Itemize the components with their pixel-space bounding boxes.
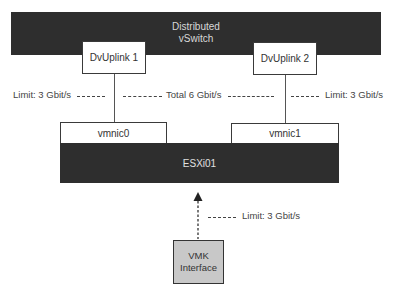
vmk-label-line1: VMK <box>188 250 209 262</box>
uplink-2-connector <box>285 75 286 123</box>
vmk-arrow-icon <box>192 192 204 240</box>
uplink-1-connector <box>114 74 115 122</box>
total-right-dash <box>228 96 274 97</box>
distributed-vswitch: Distributed vSwitch <box>11 12 381 55</box>
total-left-dash <box>123 96 162 97</box>
vswitch-label-line1: Distributed <box>172 21 220 33</box>
dvuplink-2: DvUplink 2 <box>253 42 317 75</box>
limit-right-label: Limit: 3 Gbit/s <box>325 89 383 100</box>
esxi-host: ESXi01 <box>60 143 339 183</box>
vmk-limit-dash <box>208 217 236 218</box>
dvuplink-2-label: DvUplink 2 <box>261 53 309 64</box>
vmk-label-line2: Interface <box>180 262 217 274</box>
dvuplink-1-label: DvUplink 1 <box>90 52 138 63</box>
vmnic1: vmnic1 <box>231 123 339 144</box>
total-label: Total 6 Gbit/s <box>166 89 221 100</box>
limit-left-dash <box>77 96 105 97</box>
limit-left-label: Limit: 3 Gbit/s <box>13 89 71 100</box>
vmnic0: vmnic0 <box>60 122 167 144</box>
limit-right-dash <box>291 96 319 97</box>
vmnic0-label: vmnic0 <box>98 128 130 139</box>
vswitch-label-line2: vSwitch <box>179 33 213 45</box>
vmnic1-label: vmnic1 <box>269 128 301 139</box>
vmk-interface: VMK Interface <box>173 240 224 284</box>
vmk-limit-label: Limit: 3 Gbit/s <box>242 210 300 221</box>
esxi-host-label: ESXi01 <box>183 158 216 169</box>
dvuplink-1: DvUplink 1 <box>82 41 146 74</box>
